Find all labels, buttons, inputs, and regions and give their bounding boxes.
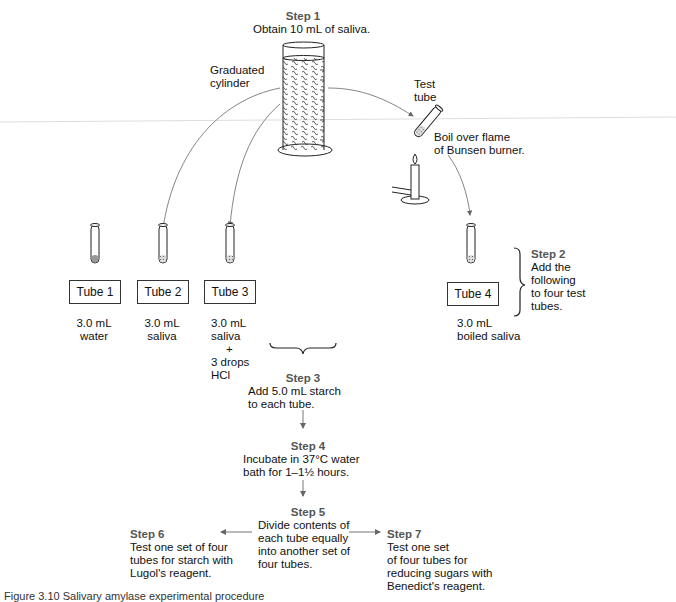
scan-line	[0, 117, 676, 122]
step7-block: Step 7 Test one set of four tubes for re…	[387, 528, 492, 593]
graduated-cylinder-icon	[278, 42, 332, 156]
figure-caption: Figure 3.10 Salivary amylase experimenta…	[4, 590, 264, 602]
boil-label: Boil over flame of Bunsen burner.	[434, 131, 525, 157]
step-line: Test one set	[387, 541, 492, 554]
arrow-to-tube3	[230, 104, 280, 226]
step5-label: Step 5	[258, 506, 358, 519]
step-line: tubes.	[531, 300, 585, 313]
tube4-box: Tube 4	[447, 282, 499, 306]
step-line: tubes for starch with	[130, 554, 233, 567]
arrow-to-test-tube	[328, 88, 413, 116]
step5-block: Step 5 Divide contents of each tube equa…	[258, 506, 358, 571]
content-line: 3.0 mL	[132, 317, 192, 330]
step-line: Divide contents of	[258, 519, 358, 532]
step7-label: Step 7	[387, 528, 492, 541]
step1-block: Step 1 Obtain 10 mL of saliva.	[253, 10, 353, 36]
step3-block: Step 3 Add 5.0 mL starch to each tube.	[248, 372, 358, 411]
label-line: cylinder	[210, 77, 264, 90]
step-line: of four tubes for	[387, 554, 492, 567]
step-line: following	[531, 274, 585, 287]
step1-label: Step 1	[253, 10, 353, 23]
tube2-contents: 3.0 mL saliva	[132, 317, 192, 343]
content-line: 3 drops	[211, 356, 271, 369]
tube1-contents: 3.0 mL water	[64, 317, 124, 343]
content-line: saliva	[132, 330, 192, 343]
step-line: each tube equally	[258, 532, 358, 545]
label-line: tube	[414, 91, 436, 104]
content-line: saliva	[211, 330, 271, 343]
step-line: reducing sugars with	[387, 567, 492, 580]
step4-block: Step 4 Incubate in 37°C water bath for 1…	[243, 440, 373, 479]
label-line: of Bunsen burner.	[434, 144, 525, 157]
step-line: Benedict's reagent.	[387, 580, 492, 593]
step4-label: Step 4	[243, 440, 373, 453]
tube3-icon	[226, 224, 235, 264]
tube1-box: Tube 1	[69, 280, 121, 304]
content-line: boiled saliva	[457, 330, 520, 343]
label-line: Boil over flame	[434, 131, 525, 144]
test-tube-label: Test tube	[414, 78, 436, 104]
content-line: 3.0 mL	[457, 317, 520, 330]
tube4-icon	[467, 224, 476, 264]
arrow-to-tube2	[163, 88, 280, 228]
tube2-icon	[159, 224, 168, 264]
step2-label: Step 2	[531, 248, 585, 261]
step-line: Lugol's reagent.	[130, 567, 233, 580]
step-line: to each tube.	[248, 398, 358, 411]
step-line: Add the	[531, 261, 585, 274]
label-line: Graduated	[210, 64, 264, 77]
content-line: 3.0 mL	[211, 317, 271, 330]
step6-block: Step 6 Test one set of four tubes for st…	[130, 528, 233, 580]
content-line: 3.0 mL	[64, 317, 124, 330]
step2-block: Step 2 Add the following to four test tu…	[531, 248, 585, 313]
step3-label: Step 3	[248, 372, 358, 385]
step6-label: Step 6	[130, 528, 233, 541]
tube1-icon	[91, 224, 100, 264]
content-line: +	[211, 343, 271, 356]
arrow-to-tube4	[448, 155, 470, 215]
content-line: water	[64, 330, 124, 343]
step1-text: Obtain 10 mL of saliva.	[253, 23, 370, 35]
step-line: into another set of	[258, 545, 358, 558]
step-line: Test one set of four	[130, 541, 233, 554]
tube2-box: Tube 2	[137, 280, 189, 304]
bunsen-burner-icon	[392, 154, 429, 204]
step-line: to four test	[531, 287, 585, 300]
step-line: four tubes.	[258, 558, 358, 571]
label-line: Test	[414, 78, 436, 91]
step-line: Incubate in 37°C water	[243, 453, 373, 466]
step2-brace	[514, 248, 525, 316]
step-line: bath for 1–1½ hours.	[243, 466, 373, 479]
step-line: Add 5.0 mL starch	[248, 385, 358, 398]
step3-brace	[270, 343, 336, 354]
graduated-cylinder-label: Graduated cylinder	[210, 64, 264, 90]
tube4-contents: 3.0 mL boiled saliva	[457, 317, 520, 343]
tube3-box: Tube 3	[204, 280, 256, 304]
